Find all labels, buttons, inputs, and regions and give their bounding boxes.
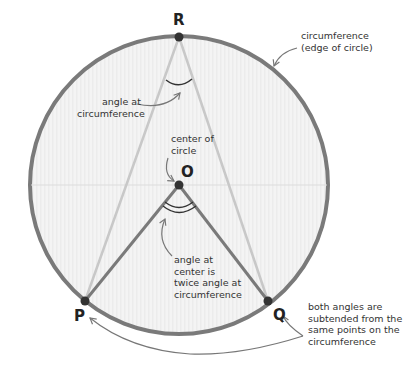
label-Q: Q	[273, 306, 286, 324]
text-line: circumference	[77, 108, 145, 120]
text-line: center is	[174, 266, 242, 278]
text-line: twice angle at	[174, 277, 242, 289]
text-line: angle at	[174, 254, 242, 266]
text-line: circumference	[174, 289, 242, 301]
annotation-subtended: both angles are subtended from the same …	[308, 301, 402, 347]
arrow-subtended-to-Q	[283, 316, 303, 336]
arrow-circumference	[274, 48, 297, 66]
annotation-angle-at-center: angle at center is twice angle at circum…	[174, 254, 242, 300]
annotation-circumference: circumference (edge of circle)	[301, 30, 373, 53]
text-line: (edge of circle)	[301, 42, 373, 54]
point-Q	[264, 297, 273, 306]
point-R	[175, 33, 184, 42]
text-line: both angles are	[308, 301, 402, 313]
point-P	[81, 297, 90, 306]
point-O	[175, 181, 184, 190]
text-line: circumference	[308, 336, 402, 348]
label-O: O	[181, 163, 194, 181]
annotation-center-of-circle: center of circle	[171, 133, 214, 156]
annotation-angle-at-circumference: angle at circumference	[77, 96, 145, 119]
text-line: circumference	[301, 30, 373, 42]
label-R: R	[173, 11, 185, 29]
text-line: center of	[171, 133, 214, 145]
text-line: angle at	[77, 96, 145, 108]
text-line: subtended from the	[308, 313, 402, 325]
text-line: same points on the	[308, 324, 402, 336]
text-line: circle	[171, 145, 214, 157]
label-P: P	[74, 307, 85, 325]
